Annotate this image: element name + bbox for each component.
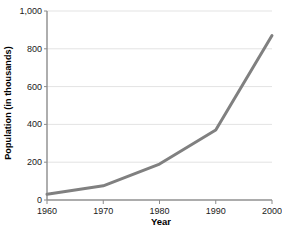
axis-spines [47,11,272,200]
plot-area [0,0,282,237]
gridlines [47,11,272,200]
x-axis-ticks [47,200,272,204]
population-data-line [47,36,272,195]
x-axis-title: Year [46,216,276,227]
population-line-chart: Population (in thousands) 02004006008001… [0,0,282,237]
